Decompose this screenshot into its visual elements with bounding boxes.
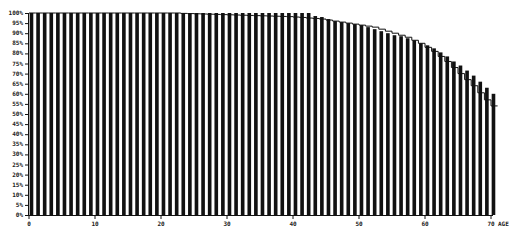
bar [181,13,185,215]
x-tick-label: 20 [157,220,165,227]
bar [399,36,403,215]
bar [485,88,489,215]
bar [89,13,93,215]
y-tick-label: 30% [12,150,23,157]
bar [195,13,199,215]
y-axis: 0%5%10%15%20%25%30%35%40%45%50%55%60%65%… [9,9,29,218]
bar [247,13,251,215]
y-tick-label: 75% [12,60,23,67]
bar [300,13,304,215]
y-tick-label: 80% [12,49,23,56]
bar [320,17,324,215]
bar [155,13,159,215]
y-tick-label: 95% [12,19,23,26]
x-tick-label: 50 [355,220,363,227]
x-tick-label: 70 [487,220,495,227]
bar [274,13,278,215]
bar [43,13,47,215]
bar [188,13,192,215]
y-tick-label: 25% [12,161,23,168]
bar [221,13,225,215]
bar [122,13,126,215]
bar [379,31,383,215]
bar [148,13,152,215]
y-tick-label: 40% [12,130,23,137]
bar [478,82,482,215]
x-tick-label: 10 [91,220,99,227]
bar [234,13,238,215]
bar [287,13,291,215]
bar [373,29,377,215]
bar [267,13,271,215]
bar [49,13,53,215]
y-tick-label: 100% [9,9,24,16]
bar [135,13,139,215]
bar [129,13,133,215]
x-tick-label: 60 [421,220,429,227]
y-tick-label: 10% [12,191,23,198]
x-tick-label: 0 [27,220,31,227]
y-tick-label: 65% [12,80,23,87]
bar [254,13,258,215]
bar [459,66,463,215]
bar [63,13,67,215]
y-tick-label: 35% [12,140,23,147]
bar [426,45,430,215]
y-tick-label: 55% [12,100,23,107]
bar [366,27,370,215]
bar [386,33,390,215]
x-axis-label: AGE [498,220,509,227]
bar [327,19,331,215]
bar [142,13,146,215]
bar [115,13,119,215]
y-tick-label: 85% [12,39,23,46]
bar [30,13,34,215]
bar [340,22,344,215]
bar [406,38,410,215]
bar [360,25,364,215]
bar [261,13,265,215]
bar [102,13,106,215]
bar [353,24,357,215]
bar [492,94,496,215]
bar [465,71,469,215]
bar [56,13,60,215]
bar [452,61,456,215]
y-tick-label: 15% [12,181,23,188]
y-tick-label: 0% [16,211,24,218]
bar [82,13,86,215]
y-tick-label: 20% [12,171,23,178]
bar [333,21,337,215]
bar [69,13,73,215]
x-axis: 010203040506070 [27,215,495,227]
bar [445,56,449,215]
bar [307,13,311,215]
bar [76,13,80,215]
x-tick-label: 30 [223,220,231,227]
bar [280,13,284,215]
bar [346,23,350,215]
y-tick-label: 5% [16,201,24,208]
bar [36,13,40,215]
bar [439,52,443,215]
bar [432,48,436,215]
bar [228,13,232,215]
bar [162,13,166,215]
bar [313,16,317,215]
bar [393,35,397,215]
y-tick-label: 60% [12,90,23,97]
y-tick-label: 90% [12,29,23,36]
y-tick-label: 50% [12,110,23,117]
bar [294,13,298,215]
y-tick-label: 45% [12,120,23,127]
bar [175,13,179,215]
bar [419,43,423,215]
bar [241,13,245,215]
bar [412,40,416,215]
bar [109,13,113,215]
bar [168,13,172,215]
x-tick-label: 40 [289,220,297,227]
y-tick-label: 70% [12,70,23,77]
bar [214,13,218,215]
bar [201,13,205,215]
